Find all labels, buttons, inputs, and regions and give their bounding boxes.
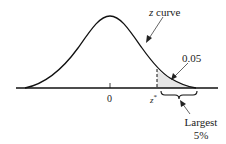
brace-label-arrowhead-icon	[180, 100, 186, 107]
curve-label-arrowhead-icon	[146, 35, 152, 43]
area-label-arrowhead-icon	[171, 73, 177, 80]
largest-5-percent-brace	[161, 91, 197, 99]
brace-label: Largest 5%	[184, 117, 218, 141]
curve-label: z curve	[149, 7, 180, 18]
zero-label: 0	[107, 94, 112, 104]
curve-label-arrow	[148, 17, 163, 40]
critical-value-superscript: *	[154, 93, 158, 101]
brace-label-line1: Largest	[184, 117, 218, 128]
brace-label-line2: 5%	[184, 130, 218, 141]
area-label: 0.05	[182, 53, 201, 64]
z-curve	[25, 16, 196, 88]
critical-value-label: z*	[150, 94, 157, 105]
area-label-arrow	[174, 63, 188, 77]
curve-label-word: curve	[153, 6, 180, 18]
